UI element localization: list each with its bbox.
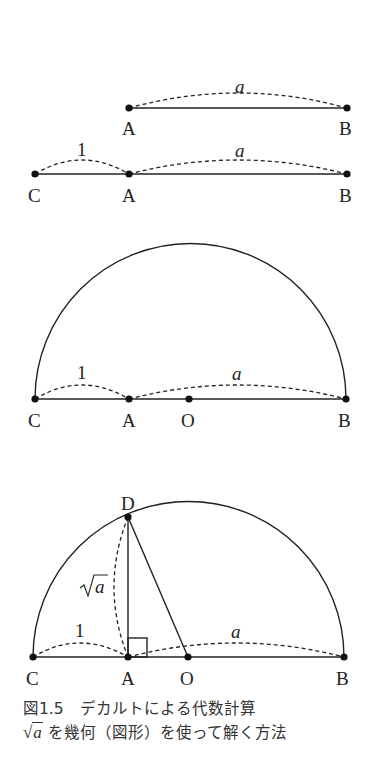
- arc-1: [35, 160, 129, 174]
- label-point-b: B: [339, 118, 352, 139]
- point-d: [124, 513, 131, 520]
- label-point-o: O: [181, 410, 195, 431]
- caption-line-2: √a を幾何（図形）を使って解く方法: [23, 721, 287, 745]
- arc-a: [129, 160, 347, 174]
- point-b: [340, 653, 347, 660]
- arc-1: [33, 643, 128, 657]
- arc-a: [129, 385, 346, 399]
- point-a: [124, 653, 131, 660]
- label-point-b: B: [339, 185, 352, 206]
- label-point-c: C: [28, 410, 41, 431]
- caption-sqrt-a: √a: [23, 722, 43, 742]
- caption-line-2-text: を幾何（図形）を使って解く方法: [43, 724, 287, 742]
- point-b: [342, 395, 349, 402]
- step4-construction: D a 1 a C A O B: [26, 493, 349, 689]
- radical-symbol: √: [23, 723, 32, 742]
- label-point-b: B: [336, 668, 349, 689]
- step2-segment-cab: 1 a C A B: [28, 139, 352, 206]
- point-b: [343, 104, 350, 111]
- label-point-c: C: [26, 668, 39, 689]
- point-a: [125, 395, 132, 402]
- label-point-a: A: [122, 118, 136, 139]
- point-c: [29, 653, 36, 660]
- label-one: 1: [77, 362, 87, 383]
- step1-segment-ab: a A B: [122, 76, 352, 139]
- arc-a: [128, 643, 344, 657]
- label-point-d: D: [121, 493, 135, 514]
- figure-caption: 図1.5 デカルトによる代数計算 √a を幾何（図形）を使って解く方法: [23, 697, 287, 745]
- label-a-length: a: [235, 140, 245, 161]
- point-a: [125, 104, 132, 111]
- label-a-length: a: [232, 363, 242, 384]
- arc-sqrt-a: [114, 517, 128, 657]
- point-c: [31, 395, 38, 402]
- point-c: [31, 170, 38, 177]
- sqrt-variable: a: [95, 576, 105, 597]
- point-b: [343, 170, 350, 177]
- descartes-sqrt-construction-figure: a A B 1 a C A B 1 a C A O B: [0, 0, 373, 700]
- radius-od: [128, 517, 188, 657]
- arc-1: [35, 385, 129, 399]
- label-one: 1: [75, 620, 85, 641]
- label-a-length: a: [231, 621, 241, 642]
- point-a: [125, 170, 132, 177]
- step3-semicircle: 1 a C A O B: [28, 244, 351, 431]
- label-point-a: A: [122, 410, 136, 431]
- label-point-o: O: [180, 668, 194, 689]
- label-sqrt-a: a: [80, 575, 108, 597]
- label-one: 1: [77, 139, 87, 160]
- point-o: [184, 653, 191, 660]
- caption-line-1: 図1.5 デカルトによる代数計算: [23, 697, 287, 721]
- label-point-c: C: [28, 185, 41, 206]
- label-point-b: B: [338, 410, 351, 431]
- point-o: [185, 395, 192, 402]
- label-point-a: A: [121, 668, 135, 689]
- label-a-length: a: [235, 76, 245, 97]
- radicand: a: [32, 722, 43, 742]
- label-point-a: A: [122, 185, 136, 206]
